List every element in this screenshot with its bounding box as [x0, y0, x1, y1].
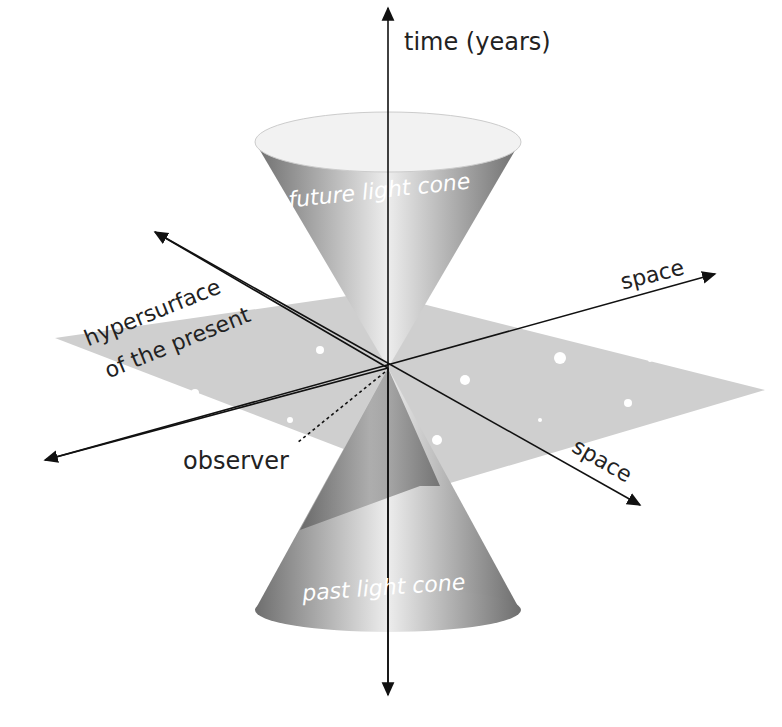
light-cone-diagram: time (years) space space future light co…	[0, 0, 782, 727]
observer-label: observer	[183, 447, 289, 475]
time-axis-label: time (years)	[404, 28, 551, 56]
